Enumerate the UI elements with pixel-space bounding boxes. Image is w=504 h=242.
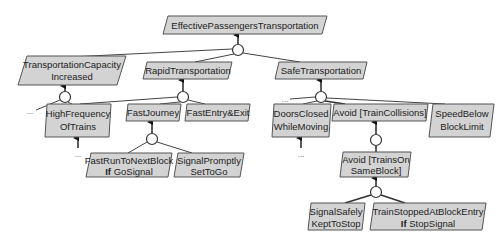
goal-avoidsame: Avoid [TrainsOn SameBlock] [340,152,411,177]
ellipsis: ... [75,150,82,159]
goal-root: EffectivePassengersTransportation [163,16,327,34]
ellipsis: ... [298,150,305,159]
and-node-root [233,45,244,56]
goal-capacity: TransportationCapacity Increased [18,56,126,85]
goal-label: Avoid [TrainsOn [342,154,410,165]
edge-rapid-highfreq [80,97,177,104]
goal-rapid: RapidTransportation [143,62,232,79]
edge-fastjourney-signalprompt [157,142,192,153]
goal-label: RapidTransportation [145,65,231,76]
goal-label: SameBlock] [351,165,402,176]
edge-safe-more [290,97,315,99]
goal-fastentry: FastEntry&Exit [185,104,250,121]
goal-label: SignalSafely [310,206,363,217]
goal-label: TransportationCapacity [23,59,121,70]
and-node-rapid [178,92,189,103]
edge-root-rapid [195,54,234,62]
goal-label: BlockLimit [440,121,484,132]
goal-label: SetToGo [191,166,228,177]
and-node-avoidsame [371,187,382,198]
goal-label: WhileMoving [274,121,328,132]
edge-safe-speed [327,98,445,104]
goal-doors: DoorsClosed WhileMoving [272,104,331,137]
edge-avoidsame-signalsafe [345,195,371,203]
and-node-safe [316,92,327,103]
goal-avoidcoll: Avoid [TrainCollisions] [332,104,428,121]
and-node-fastjourney [147,134,158,145]
goal-label: FastEntry&Exit [187,107,250,118]
goal-label: If StopSignal [401,218,455,229]
goal-speed: SpeedBelow BlockLimit [429,104,494,137]
goal-label: DoorsClosed [274,108,329,119]
goal-signalsafe: SignalSafely KeptToStop [308,203,365,230]
goal-label: OfTrains [60,121,96,132]
goal-label: EffectivePassengersTransportation [171,20,318,31]
goal-highfreq: HighFrequency OfTrains [45,104,111,137]
and-node-capacity [60,92,71,103]
goal-label: KeptToStop [311,218,360,229]
goal-fastjourney: FastJourney [126,104,181,121]
goal-label: Avoid [TrainCollisions] [333,107,426,118]
goal-label: If GoSignal [105,166,153,177]
goal-label: SignalPromptly [177,155,241,166]
goal-label: HighFrequency [46,108,111,119]
goal-signalprompt: SignalPromptly SetToGo [174,153,244,177]
and-node-avoidcoll [371,135,382,146]
goal-label: FastRunToNextBlock [85,155,174,166]
goal-diagram: ... ... ... ... EffectivePassengersTrans… [0,0,504,242]
edge-rapid-fastentry [188,100,205,104]
goal-fastrun: FastRunToNextBlock If GoSignal [85,153,174,177]
goal-label: SafeTransportation [281,65,361,76]
ellipsis: ... [282,95,289,104]
goal-trainstopped: TrainStoppedAtBlockEntry If StopSignal [370,203,486,230]
goal-label: TrainStoppedAtBlockEntry [372,206,483,217]
ellipsis: ... [27,107,34,116]
goal-label: Increased [51,71,93,82]
edge-root-safe [243,53,300,62]
goal-label: SpeedBelow [435,108,488,119]
goal-label: FastJourney [127,107,180,118]
goal-safe: SafeTransportation [275,62,367,79]
edge-avoidsame-trainstopped [381,195,405,203]
edge-fastjourney-fastrun [128,142,147,153]
